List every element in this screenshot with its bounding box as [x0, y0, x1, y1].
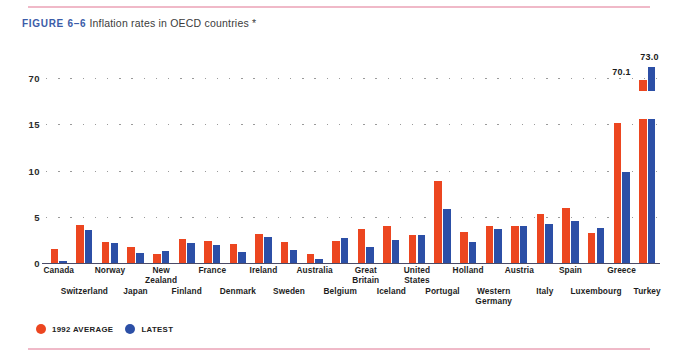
- bar-1992-average: [281, 242, 289, 263]
- bar-latest: [469, 242, 477, 263]
- bar-group: [76, 62, 92, 263]
- bar-latest: [315, 259, 323, 263]
- value-label-turkey-1992: 70.1: [612, 67, 631, 77]
- bar-latest: [418, 235, 426, 263]
- x-label-united-states: United States: [404, 266, 430, 285]
- x-label-austria: Austria: [505, 266, 534, 276]
- x-label-belgium: Belgium: [323, 287, 356, 297]
- bar-1992-average: [332, 241, 340, 263]
- bar-latest: [648, 119, 656, 263]
- y-axis: 70151050: [0, 0, 46, 263]
- x-label-denmark: Denmark: [220, 287, 256, 297]
- y-tick-5: 5: [34, 211, 40, 222]
- bar-latest: [162, 251, 170, 263]
- bar-1992-average: [434, 181, 442, 263]
- bar-group: [332, 62, 348, 263]
- bar-series-container: 70.173.0: [46, 62, 660, 263]
- bar-group: [153, 62, 169, 263]
- x-label-spain: Spain: [559, 266, 582, 276]
- value-label-turkey-latest: 73.0: [640, 52, 659, 62]
- bar-latest: [494, 229, 502, 263]
- bar-1992-average: [588, 233, 596, 263]
- y-tick-70: 70: [28, 73, 40, 84]
- x-label-ireland: Ireland: [250, 266, 278, 276]
- legend-swatch-icon: [125, 324, 135, 334]
- legend-label-latest: LATEST: [141, 325, 173, 334]
- bar-1992-average: [153, 254, 161, 263]
- legend-swatch-icon: [36, 324, 46, 334]
- x-label-holland: Holland: [453, 266, 484, 276]
- bar-1992-average: [537, 214, 545, 263]
- plot-area: 70.173.0: [46, 62, 660, 263]
- bar-1992-average: [51, 249, 59, 263]
- bar-group: [358, 62, 374, 263]
- bar-group: [614, 62, 630, 263]
- bar-group: [409, 62, 425, 263]
- bar-1992-average: [179, 239, 187, 263]
- x-label-great-britain: Great Britain: [352, 266, 379, 285]
- figure-title: FIGURE 6–6 Inflation rates in OECD count…: [22, 17, 256, 29]
- bar-1992-average: [204, 241, 212, 263]
- bar-1992-average: [639, 119, 647, 263]
- x-label-norway: Norway: [95, 266, 126, 276]
- bar-group: [486, 62, 502, 263]
- bar-1992-average: [127, 247, 135, 263]
- bar-group: [51, 62, 67, 263]
- bar-group: [281, 62, 297, 263]
- bar-latest: [111, 243, 119, 263]
- bar-1992-average: [486, 226, 494, 263]
- bar-1992-average: [614, 123, 622, 263]
- bar-group: [255, 62, 271, 263]
- bar-latest: [443, 209, 451, 263]
- bar-latest: [264, 237, 272, 263]
- legend-item-1992-average: 1992 AVERAGE: [36, 324, 113, 334]
- bar-latest: [187, 243, 195, 263]
- x-label-portugal: Portugal: [425, 287, 459, 297]
- bar-group: [562, 62, 578, 263]
- bar-group: [511, 62, 527, 263]
- bar-1992-average: [409, 235, 417, 263]
- bar-latest: [545, 224, 553, 263]
- x-label-western-germany: Western Germany: [475, 287, 512, 306]
- bar-1992-average: [255, 234, 263, 263]
- x-label-italy: Italy: [536, 287, 553, 297]
- x-label-sweden: Sweden: [273, 287, 305, 297]
- x-axis-labels: CanadaSwitzerlandNorwayJapanNew ZealandF…: [0, 266, 677, 316]
- bottom-rule: [28, 348, 650, 350]
- bar-1992-average-top-fragment: [639, 80, 647, 91]
- bar-latest: [85, 230, 93, 263]
- bar-group: [383, 62, 399, 263]
- bar-1992-average: [383, 226, 391, 263]
- bar-latest: [571, 221, 579, 264]
- bar-1992-average: [358, 229, 366, 263]
- bar-latest: [59, 261, 67, 263]
- bar-group: [537, 62, 553, 263]
- bar-group: [588, 62, 604, 263]
- bar-group: [434, 62, 450, 263]
- figure-caption: Inflation rates in OECD countries *: [89, 17, 256, 29]
- bar-latest: [597, 228, 605, 263]
- x-label-luxembourg: Luxembourg: [570, 287, 621, 297]
- bar-latest: [213, 245, 221, 263]
- bar-latest: [520, 226, 528, 263]
- x-label-france: France: [198, 266, 226, 276]
- bar-1992-average: [460, 232, 468, 263]
- bar-1992-average: [562, 208, 570, 263]
- x-label-greece: Greece: [607, 266, 636, 276]
- bar-group: [127, 62, 143, 263]
- bar-latest: [136, 253, 144, 263]
- bar-latest: [622, 172, 630, 263]
- bar-latest: [366, 247, 374, 263]
- legend-label-1992-average: 1992 AVERAGE: [52, 325, 113, 334]
- bar-latest-top-fragment: [648, 67, 656, 91]
- bar-group: [460, 62, 476, 263]
- x-label-canada: Canada: [43, 266, 74, 276]
- chart-legend: 1992 AVERAGE LATEST: [36, 324, 173, 334]
- bar-1992-average: [511, 226, 519, 263]
- y-tick-15: 15: [28, 119, 40, 130]
- bar-group: 70.173.0: [639, 62, 655, 263]
- x-label-switzerland: Switzerland: [61, 287, 108, 297]
- top-rule: [28, 6, 650, 8]
- bar-1992-average: [102, 242, 110, 263]
- bar-1992-average: [230, 244, 238, 263]
